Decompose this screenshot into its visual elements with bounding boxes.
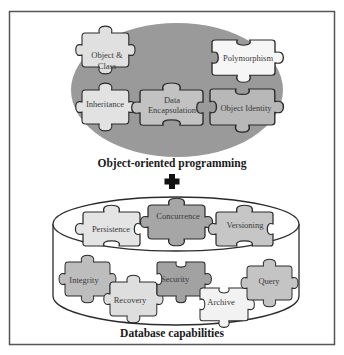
database-title: Database capabilities — [120, 327, 224, 340]
piece-label-object-identity: Object Identity — [220, 103, 272, 113]
piece-label-data-encapsulation: Data — [164, 95, 180, 105]
piece-label-object-class-line2: Class — [98, 61, 116, 71]
piece-label-data-encapsulation-line2: Encapsulation — [148, 105, 197, 115]
oop-title: Object-oriented programming — [98, 157, 247, 170]
piece-label-versioning: Versioning — [227, 220, 265, 230]
piece-label-security: Security — [161, 274, 190, 284]
piece-label-object-class: Object & — [91, 50, 123, 60]
piece-label-concurrence: Concurrence — [156, 211, 200, 221]
piece-label-integrity: Integrity — [69, 275, 99, 285]
piece-label-query: Query — [258, 276, 280, 286]
piece-label-recovery: Recovery — [114, 295, 147, 305]
oop-plus-database-diagram: Object & Class Polymorphism Inheritance … — [0, 0, 344, 355]
puzzle-piece-concurrence — [140, 198, 212, 246]
piece-label-persistence: Persistence — [92, 224, 130, 234]
piece-label-inheritance: Inheritance — [86, 99, 124, 109]
piece-label-polymorphism: Polymorphism — [223, 53, 273, 63]
piece-label-archive: Archive — [207, 297, 235, 307]
